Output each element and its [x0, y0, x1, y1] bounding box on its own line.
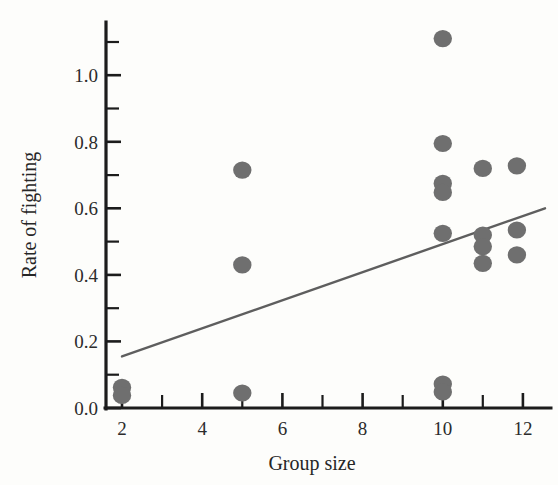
x-tick-label: 6 — [278, 418, 288, 439]
x-tick-label: 12 — [513, 418, 532, 439]
data-point — [434, 135, 452, 152]
y-tick-label: 1.0 — [74, 65, 98, 86]
data-point — [474, 160, 492, 177]
y-tick-label: 0.4 — [74, 265, 98, 286]
data-point — [508, 246, 526, 263]
figure-container: 0.00.20.40.60.81.0 24681012 Group size R… — [0, 0, 558, 485]
data-point — [474, 255, 492, 272]
y-axis-title: Rate of fighting — [18, 152, 41, 279]
scatter-plot: 0.00.20.40.60.81.0 24681012 Group size R… — [0, 0, 558, 485]
data-point — [434, 184, 452, 201]
data-point — [508, 157, 526, 174]
x-tick-label: 10 — [433, 418, 452, 439]
data-point — [434, 383, 452, 400]
y-tick-labels: 0.00.20.40.60.81.0 — [74, 65, 98, 419]
y-tick-label: 0.0 — [74, 398, 98, 419]
data-point — [113, 387, 131, 404]
data-points-group — [113, 30, 526, 404]
x-axis-minor-ticks — [162, 395, 483, 407]
y-tick-label: 0.2 — [74, 331, 98, 352]
y-tick-label: 0.8 — [74, 132, 98, 153]
x-tick-label: 4 — [197, 418, 207, 439]
y-tick-label: 0.6 — [74, 198, 98, 219]
data-point — [233, 384, 251, 401]
x-axis-title: Group size — [268, 452, 355, 475]
data-point — [474, 238, 492, 255]
data-point — [233, 256, 251, 273]
data-point — [233, 162, 251, 179]
data-point — [434, 225, 452, 242]
data-point — [434, 30, 452, 47]
x-tick-label: 8 — [358, 418, 368, 439]
x-tick-label: 2 — [117, 418, 127, 439]
data-point — [508, 221, 526, 238]
x-tick-labels: 24681012 — [117, 418, 532, 439]
